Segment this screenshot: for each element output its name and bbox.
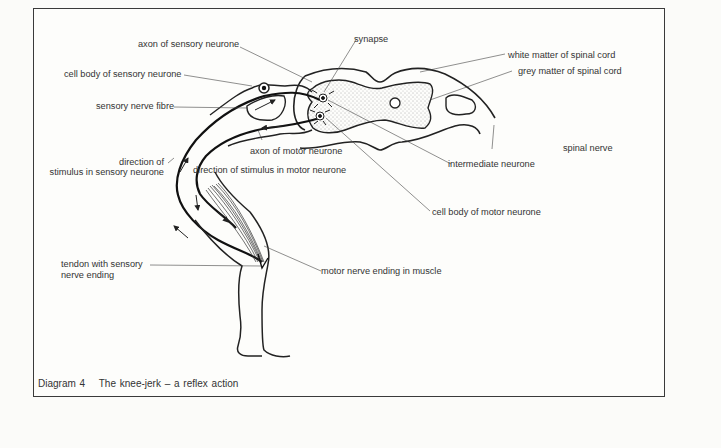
label-grey-matter: grey matter of spinal cord (518, 66, 622, 77)
caption-title: The knee-jerk – a reflex action (99, 378, 239, 389)
label-white-matter: white matter of spinal cord (508, 50, 615, 61)
muscle-fibres (206, 183, 264, 262)
label-spinal-nerve: spinal nerve (563, 143, 613, 154)
label-tendon-2: nerve ending (61, 270, 114, 281)
label-cell-body-motor: cell body of motor neurone (432, 207, 541, 218)
label-motor-nerve-ending: motor nerve ending in muscle (321, 266, 442, 277)
label-cell-body-sensory: cell body of sensory neurone (64, 69, 181, 80)
label-intermediate-neurone: intermediate neurone (448, 159, 535, 170)
label-synapse: synapse (354, 34, 388, 45)
label-axon-sensory-neurone: axon of sensory neurone (138, 39, 239, 50)
label-tendon-1: tendon with sensory (61, 259, 143, 270)
figure-caption: Diagram 4 The knee-jerk – a reflex actio… (38, 378, 238, 389)
leg-outline (195, 172, 290, 357)
label-sensory-nerve-fibre: sensory nerve fibre (96, 101, 174, 112)
label-axon-motor-neurone: axon of motor neurone (250, 146, 342, 157)
central-canal (390, 98, 400, 108)
caption-number: Diagram 4 (38, 378, 85, 389)
label-direction-motor: direction of stimulus in motor neurone (193, 165, 346, 176)
label-direction-sensory-2: stimulus in sensory neurone (28, 167, 164, 178)
